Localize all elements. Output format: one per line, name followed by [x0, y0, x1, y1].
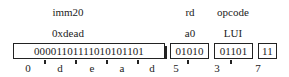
- nibble-label: a: [120, 62, 125, 74]
- bits-box-rd: 01010: [170, 43, 209, 59]
- bits-box-opcode: 01101: [214, 43, 253, 59]
- nibble-label: d: [149, 62, 155, 74]
- bits-rd: 01010: [176, 45, 204, 57]
- nibble-label: 5: [173, 62, 179, 74]
- box-shadow-imm20: [165, 46, 167, 59]
- field-value-opcode: LUI: [224, 27, 242, 39]
- nibble-label: 0: [25, 62, 31, 74]
- field-name-opcode: opcode: [217, 6, 249, 18]
- nibble-label: e: [90, 62, 95, 74]
- bits-imm20: 00001101111010101101: [34, 45, 144, 57]
- field-name-imm20: imm20: [52, 6, 83, 18]
- nibble-tick: [75, 60, 77, 64]
- nibble-tick: [44, 60, 46, 64]
- nibble-label: 3: [214, 62, 220, 74]
- field-name-rd: rd: [185, 6, 194, 18]
- field-value-rd: a0: [185, 27, 195, 39]
- nibble-tick: [187, 60, 189, 64]
- field-value-imm20: 0xdead: [52, 27, 84, 39]
- bits-box-low: 11: [258, 43, 277, 59]
- nibble-label: d: [57, 62, 63, 74]
- nibble-tick: [106, 60, 108, 64]
- nibble-tick: [137, 60, 139, 64]
- bits-box-imm20: 00001101111010101101: [13, 43, 165, 59]
- bits-low: 11: [262, 45, 273, 57]
- nibble-label: 7: [255, 62, 261, 74]
- nibble-tick: [230, 60, 232, 64]
- bits-opcode: 01101: [220, 45, 248, 57]
